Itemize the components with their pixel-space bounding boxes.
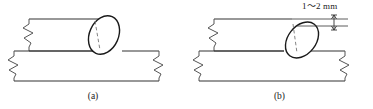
zigzag-break-icon-lower-left-b [193,51,203,81]
caption-panel-a: (a) [0,92,186,102]
zigzag-break-icon-upper-b [208,19,218,51]
panel-a-drawing [8,11,163,81]
zigzag-break-icon-lower-right-a [153,51,163,81]
zigzag-break-icon-lower-right-b [339,51,349,81]
weld-bead-a [83,11,126,59]
zigzag-break-icon-lower-left-a [8,51,18,81]
weld-bead-b [279,16,326,65]
panel-b-drawing [193,15,349,81]
figure-container: 1～2 mm (a) (b) [0,0,373,109]
caption-panel-b: (b) [186,92,373,102]
dimension-label: 1～2 mm [302,2,337,11]
zigzag-break-icon-upper-a [23,19,33,51]
